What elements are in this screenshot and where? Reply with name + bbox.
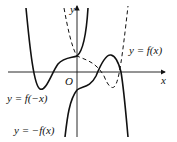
label-f-x: y = f(x) bbox=[129, 45, 162, 56]
x-axis-label: x bbox=[161, 75, 166, 86]
label-neg-f-x: y = −f(x) bbox=[14, 125, 55, 136]
curve-f-neg-x bbox=[26, 8, 88, 89]
graph-canvas bbox=[0, 0, 177, 142]
label-f-neg-x: y = f(−x) bbox=[7, 93, 48, 104]
y-axis-label: y bbox=[70, 4, 75, 15]
function-graph-diagram: y x O y = f(x) y = f(−x) y = −f(x) bbox=[0, 0, 177, 142]
curve-neg-f-x bbox=[65, 55, 128, 137]
origin-label: O bbox=[65, 76, 73, 87]
